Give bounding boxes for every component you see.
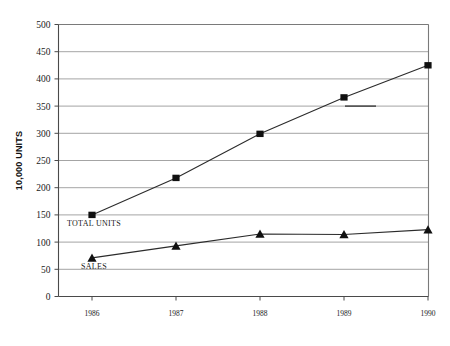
y-tick-label-250: 250 (36, 156, 51, 166)
series-annotations: TOTAL UNITSSALES (67, 219, 121, 271)
series-label-sales: SALES (81, 262, 107, 271)
series-total-units (88, 62, 431, 218)
series-line-0 (92, 65, 428, 215)
y-tick-label-100: 100 (36, 238, 51, 248)
chart-canvas: 05010015020025030035040045050010,000 UNI… (0, 0, 450, 346)
x-tick-label-1990: 1990 (421, 309, 436, 318)
y-axis-title: 10,000 UNITS (14, 131, 24, 190)
y-tick-label-200: 200 (36, 183, 51, 193)
y-tick-label-150: 150 (36, 210, 51, 220)
data-point-marker (424, 62, 431, 68)
line-chart: 05010015020025030035040045050010,000 UNI… (0, 0, 450, 346)
y-axis-title-group: 10,000 UNITS (14, 131, 24, 190)
y-axis: 050100150200250300350400450500 (36, 20, 58, 302)
data-point-marker (340, 94, 347, 100)
x-axis: 19861987198819891990 (85, 297, 436, 318)
data-point-marker (88, 212, 95, 218)
y-tick-label-50: 50 (41, 265, 51, 275)
x-tick-label-1988: 1988 (253, 309, 268, 318)
x-tick-label-1989: 1989 (337, 309, 352, 318)
y-tick-label-450: 450 (36, 47, 51, 57)
y-tick-label-300: 300 (36, 129, 51, 139)
x-tick-label-1986: 1986 (85, 309, 100, 318)
y-tick-label-400: 400 (36, 74, 51, 84)
y-tick-label-500: 500 (36, 20, 51, 30)
y-tick-label-350: 350 (36, 102, 51, 112)
series-sales (87, 225, 432, 261)
y-tick-label-0: 0 (46, 292, 51, 302)
data-point-marker (256, 131, 263, 137)
data-point-marker (172, 175, 179, 181)
series-label-total-units: TOTAL UNITS (67, 219, 121, 228)
x-tick-label-1987: 1987 (169, 309, 184, 318)
